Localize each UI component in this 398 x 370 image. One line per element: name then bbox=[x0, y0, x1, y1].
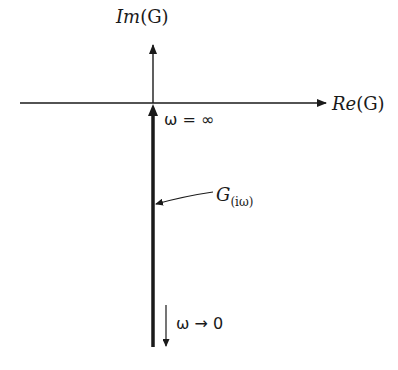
omega-infinity-label: ω = ∞ bbox=[164, 110, 214, 129]
curve-label: G(iω) bbox=[216, 184, 253, 209]
real-axis-label-arg: (G) bbox=[356, 93, 384, 114]
real-axis-label-main: Re bbox=[332, 93, 356, 114]
real-axis-label: Re(G) bbox=[332, 93, 385, 114]
curve-label-main: G bbox=[216, 184, 230, 205]
curve-label-sub: (iω) bbox=[230, 195, 253, 209]
imaginary-axis-label: Im(G) bbox=[116, 6, 169, 27]
imaginary-axis-label-arg: (G) bbox=[140, 6, 168, 27]
curve-label-leader bbox=[156, 192, 213, 204]
curve-arrowhead-icon bbox=[148, 104, 158, 116]
omega-zero-label: ω → 0 bbox=[176, 314, 223, 333]
imaginary-axis-label-main: Im bbox=[116, 6, 140, 27]
